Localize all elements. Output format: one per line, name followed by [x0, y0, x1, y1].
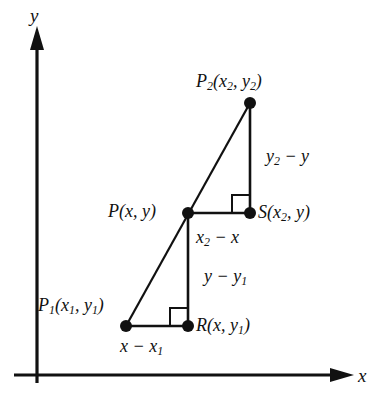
- vertex-dot-p1: [120, 320, 132, 332]
- vertex-dot-r: [182, 320, 194, 332]
- vertex-dot-s: [244, 207, 256, 219]
- segment-label-upper-vertical: y2 − y: [266, 147, 309, 168]
- y-axis-label-text: y: [30, 5, 38, 26]
- diagram-canvas: [0, 0, 376, 413]
- point-label-p: P(x, y): [108, 202, 156, 220]
- vertex-dot-p: [182, 207, 194, 219]
- distance-formula-diagram: y x P2(x2, y2) y2 − y P(x, y) S(x2, y) x…: [0, 0, 376, 413]
- point-label-s: S(x2, y): [258, 203, 310, 224]
- point-label-r: R(x, y1): [196, 316, 250, 337]
- vertex-dot-p2: [244, 97, 256, 109]
- x-axis-label: x: [358, 366, 366, 385]
- segment-label-upper-horizontal: x2 − x: [196, 228, 239, 249]
- segment-label-lower-vertical: y − y1: [204, 267, 247, 288]
- x-axis-label-text: x: [358, 365, 366, 386]
- y-axis-label: y: [30, 6, 38, 25]
- point-label-p2: P2(x2, y2): [196, 72, 262, 93]
- y-axis: [30, 26, 44, 383]
- point-label-p1: P1(x1, y1): [38, 296, 104, 317]
- segment-label-lower-horizontal: x − x1: [120, 337, 163, 358]
- x-axis: [14, 368, 354, 382]
